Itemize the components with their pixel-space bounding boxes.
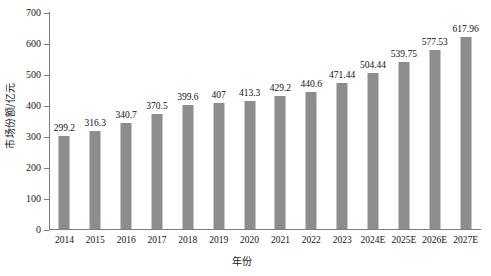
bar — [460, 37, 471, 229]
y-axis-tick-label: 500 — [26, 68, 41, 81]
y-axis-tick-label: 300 — [26, 130, 41, 143]
bar — [429, 50, 440, 229]
bar-group: 340.72016 — [111, 12, 142, 229]
x-axis-title-label: 年份 — [232, 256, 253, 267]
bar — [244, 101, 255, 229]
y-axis-title: 市场份额/亿元 — [0, 0, 18, 230]
y-axis-title-label: 市场份额/亿元 — [2, 82, 17, 148]
bar — [151, 114, 162, 229]
x-axis-tick-label: 2027E — [453, 234, 478, 246]
bar-value-label: 340.7 — [115, 110, 136, 121]
bar-value-label: 471.44 — [329, 70, 355, 81]
x-axis-tick-label: 2021 — [271, 234, 290, 246]
x-axis-title: 年份 — [0, 253, 491, 268]
x-axis-line — [49, 229, 481, 230]
bar — [90, 131, 101, 229]
bar-group: 4072019 — [203, 12, 234, 229]
bar — [337, 83, 348, 229]
bar-group: 617.962027E — [450, 12, 481, 229]
bar-value-label: 413.3 — [239, 88, 260, 99]
bar-group: 504.442024E — [358, 12, 389, 229]
bar — [367, 73, 378, 229]
bar-group: 577.532026E — [419, 12, 450, 229]
bar-group: 299.22014 — [49, 12, 80, 229]
y-axis-tick-label: 200 — [26, 161, 41, 174]
bar-value-label: 316.3 — [85, 118, 106, 129]
bar-group: 413.32020 — [234, 12, 265, 229]
bar-value-label: 577.53 — [422, 37, 448, 48]
bar-group: 316.32015 — [80, 12, 111, 229]
bar-value-label: 399.6 — [177, 92, 198, 103]
bar-group: 370.52017 — [142, 12, 173, 229]
y-axis-tick-label: 600 — [26, 37, 41, 50]
bar-group: 429.22021 — [265, 12, 296, 229]
x-axis-tick-label: 2019 — [209, 234, 228, 246]
bar — [182, 105, 193, 229]
x-axis-tick-label: 2026E — [422, 234, 447, 246]
x-axis-tick-label: 2018 — [178, 234, 197, 246]
x-axis-tick-label: 2022 — [302, 234, 321, 246]
y-axis-tick-mark — [44, 230, 49, 231]
bar-value-label: 370.5 — [146, 101, 167, 112]
bar — [306, 92, 317, 229]
x-axis-tick-label: 2024E — [361, 234, 386, 246]
bar-value-label: 407 — [212, 90, 226, 101]
plot-area: 0100200300400500600700 299.22014316.3201… — [49, 12, 481, 230]
bar — [275, 96, 286, 229]
bar — [59, 136, 70, 229]
x-axis-tick-label: 2016 — [117, 234, 136, 246]
bar — [213, 103, 224, 229]
y-axis-tick-label: 400 — [26, 99, 41, 112]
x-axis-tick-label: 2023 — [333, 234, 352, 246]
bar-value-label: 504.44 — [360, 60, 386, 71]
x-axis-tick-label: 2020 — [240, 234, 259, 246]
bar-group: 440.62022 — [296, 12, 327, 229]
x-axis-tick-label: 2025E — [391, 234, 416, 246]
bar-group: 399.62018 — [172, 12, 203, 229]
x-axis-tick-label: 2017 — [147, 234, 166, 246]
bar-chart: 市场份额/亿元 0100200300400500600700 299.22014… — [0, 0, 491, 276]
bar-value-label: 299.2 — [54, 123, 75, 134]
bar-group: 471.442023 — [327, 12, 358, 229]
y-axis-tick-label: 100 — [26, 192, 41, 205]
y-axis-tick-label: 700 — [26, 6, 41, 19]
bar-value-label: 440.6 — [301, 79, 322, 90]
bar-value-label: 539.75 — [391, 49, 417, 60]
bar-group: 539.752025E — [388, 12, 419, 229]
y-axis-tick-label: 0 — [36, 223, 41, 236]
bar — [398, 62, 409, 229]
x-axis-tick-label: 2014 — [55, 234, 74, 246]
x-axis-tick-label: 2015 — [86, 234, 105, 246]
bar-value-label: 617.96 — [453, 24, 479, 35]
bar-value-label: 429.2 — [270, 83, 291, 94]
bar — [121, 123, 132, 229]
